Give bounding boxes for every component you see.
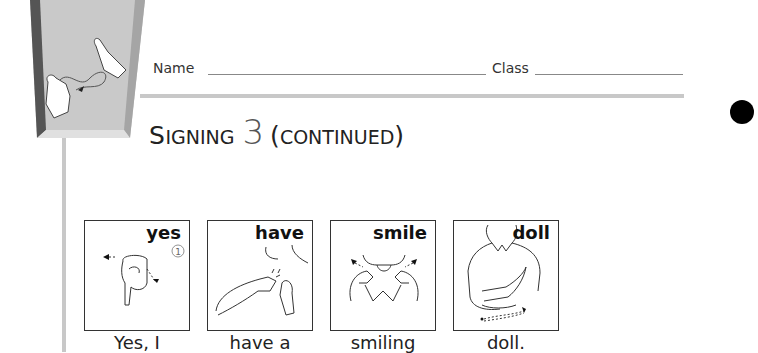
class-label: Class — [492, 60, 529, 76]
sign-word: smile — [373, 222, 427, 243]
sign-card-smile: smile — [330, 220, 436, 331]
page-title: SIGNING3(CONTINUED) — [149, 112, 404, 152]
svg-text:1: 1 — [175, 247, 181, 257]
sign-word: have — [255, 222, 304, 243]
sign-caption: have a — [207, 332, 313, 353]
lesson-number: 3 — [242, 112, 264, 152]
sign-word: doll — [512, 222, 550, 243]
sign-card-doll: doll — [453, 220, 559, 331]
sign-caption: smiling — [330, 332, 436, 353]
sign-card-have: have — [207, 220, 313, 331]
name-class-header: Name Class — [153, 57, 713, 79]
margin-vertical-rule — [62, 138, 66, 352]
sign-caption: Yes, I — [84, 332, 190, 353]
class-field[interactable] — [535, 74, 683, 75]
hole-punch-dot — [730, 100, 754, 124]
name-label: Name — [153, 60, 194, 76]
signing-hands-tab-graphic — [0, 0, 160, 145]
sign-caption: doll. — [453, 332, 559, 353]
sign-card-yes: 1 yes — [84, 220, 190, 331]
sign-word: yes — [146, 222, 181, 243]
name-field[interactable] — [208, 74, 486, 75]
header-divider — [140, 94, 684, 98]
